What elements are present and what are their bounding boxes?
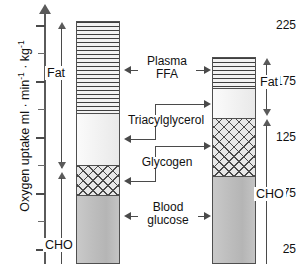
left-cho-label: CHO: [43, 238, 75, 252]
bar-right: [212, 57, 256, 264]
y-tick-label-25: 25: [262, 242, 296, 256]
callout-glycogen-stem-left: [131, 181, 156, 182]
left-fat-arrow-down-icon: [58, 162, 66, 169]
y-tick-label-225: 225: [262, 18, 296, 32]
left-fat-arrow-up-icon: [58, 22, 66, 29]
callout-glycogen-drop-left: [155, 169, 156, 181]
callout-glycogen-label: Glycogen: [142, 155, 193, 169]
bar-right-segment-plasma-ffa: [213, 58, 255, 89]
y-tick-225: [36, 25, 45, 27]
callout-blood-glucose-arrow-right-icon: [204, 212, 211, 220]
bar-right-segment-glycogen: [213, 119, 255, 177]
y-tick-200: [38, 53, 45, 54]
callout-triacylglycerol-drop-left: [155, 127, 156, 139]
y-tick-125: [36, 137, 45, 139]
callout-blood-glucose-stem-left: [131, 216, 138, 217]
callout-plasma-ffa-arrow-left-icon: [124, 66, 131, 74]
bar-right-segment-triacylglycerol: [213, 89, 255, 119]
bar-left-segment-blood-glucose: [77, 196, 119, 263]
substrate-utilisation-chart: 225 175 125 75 25 Oxygen uptake ml · min…: [0, 0, 296, 276]
bar-left-segment-glycogen: [77, 166, 119, 196]
y-axis-title-exp2: -1: [16, 40, 26, 48]
callout-triacylglycerol-rise-right: [155, 104, 156, 115]
y-axis-title-exp1: -1: [16, 72, 26, 80]
callout-triacylglycerol-arrow-right-icon: [204, 100, 211, 108]
callout-glycogen-arrow-left-icon: [124, 177, 131, 185]
left-fat-label: Fat: [45, 66, 67, 80]
right-cho-arrow-up-icon: [263, 119, 271, 126]
right-fat-span-line: [266, 64, 267, 114]
callout-plasma-ffa-stem-left: [131, 70, 138, 71]
callout-triacylglycerol-arrow-left-icon: [124, 135, 131, 143]
callout-plasma-ffa-arrow-right-icon: [204, 66, 211, 74]
callout-glycogen-stem-right: [155, 146, 205, 147]
callout-plasma-ffa-line2: FFA: [156, 67, 178, 81]
right-fat-arrow-up-icon: [263, 58, 271, 65]
bar-left-segment-plasma-ffa: [77, 22, 119, 114]
y-tick-150: [38, 109, 45, 110]
callout-blood-glucose: Blood glucose: [137, 201, 199, 226]
callout-glycogen-arrow-right-icon: [204, 142, 211, 150]
y-tick-175: [36, 81, 45, 83]
callout-triacylglycerol: Triacylglycerol: [122, 114, 210, 127]
callout-triacylglycerol-stem-left: [131, 139, 156, 140]
bar-left: [76, 21, 120, 264]
bar-left-segment-triacylglycerol: [77, 114, 119, 166]
y-tick-100: [38, 165, 45, 166]
callout-blood-glucose-line2: glucose: [147, 213, 188, 227]
callout-triacylglycerol-stem-right: [155, 104, 205, 105]
left-cho-arrow-up-icon: [58, 172, 66, 179]
y-axis-title-main: Oxygen uptake ml · min: [18, 80, 32, 212]
y-tick-50: [38, 221, 45, 222]
y-tick-75: [36, 193, 45, 195]
y-axis-title-mid: · kg: [18, 48, 32, 72]
y-axis-title: Oxygen uptake ml · min-1 · kg-1: [16, 16, 32, 236]
right-fat-arrow-down-icon: [263, 109, 271, 116]
callout-blood-glucose-arrow-left-icon: [124, 212, 131, 220]
callout-triacylglycerol-label: Triacylglycerol: [128, 113, 204, 127]
right-fat-label: Fat: [258, 75, 280, 89]
callout-glycogen: Glycogen: [133, 156, 201, 169]
right-cho-label: CHO: [254, 187, 286, 201]
bar-right-segment-blood-glucose: [213, 177, 255, 263]
callout-plasma-ffa: Plasma FFA: [137, 55, 197, 80]
left-fat-span-line: [61, 28, 62, 168]
callout-glycogen-rise-right: [155, 146, 156, 157]
y-tick-label-125: 125: [262, 130, 296, 144]
